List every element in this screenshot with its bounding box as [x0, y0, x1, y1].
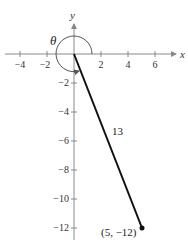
x-tick-label: 4: [126, 59, 131, 70]
y-axis-label: y: [69, 9, 75, 21]
x-tick-label: −4: [15, 59, 26, 70]
terminal-side-segment: [74, 54, 142, 228]
segment-length-label: 13: [112, 125, 124, 137]
y-tick-label: −4: [58, 106, 69, 117]
angle-theta-label: θ: [50, 33, 57, 48]
x-tick-label: 2: [99, 59, 104, 70]
endpoint-label: (5, −12): [101, 226, 137, 239]
y-tick-label: −12: [53, 222, 69, 233]
x-tick-label: 6: [153, 59, 158, 70]
y-tick-label: −10: [53, 193, 69, 204]
coordinate-plane: −4 −2 2 4 6 −2 −4 −6 −8 −10 −12 x y θ 13…: [0, 0, 188, 252]
y-tick-label: −8: [58, 164, 69, 175]
y-tick-label: −6: [58, 135, 69, 146]
x-tick-label: −2: [40, 59, 51, 70]
x-axis-label: x: [179, 48, 185, 60]
y-tick-label: −2: [58, 77, 69, 88]
endpoint-dot: [140, 226, 145, 231]
